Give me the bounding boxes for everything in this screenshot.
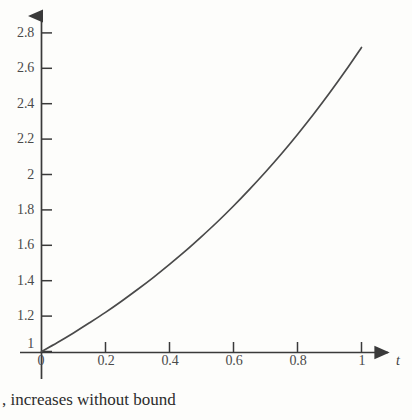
figure-caption: , increases without bound — [2, 390, 176, 410]
x-tick-label-0-4: 0.4 — [150, 353, 190, 369]
x-tick-label-0-8: 0.8 — [278, 353, 318, 369]
y-tick-label-2-6: 2.6 — [0, 60, 34, 76]
x-tick-label-0-2: 0.2 — [86, 353, 126, 369]
y-tick-label-1: 1 — [0, 336, 34, 352]
x-tick-label-0: 0 — [21, 353, 61, 369]
data-curve-e-to-the-t — [42, 47, 362, 351]
y-tick-label-2-2: 2.2 — [0, 131, 34, 147]
y-tick-label-2: 2 — [0, 167, 34, 183]
y-tick-label-1-4: 1.4 — [0, 273, 34, 289]
x-tick-label-0-6: 0.6 — [214, 353, 254, 369]
y-axis-ticks — [42, 33, 53, 352]
y-tick-label-1-6: 1.6 — [0, 237, 34, 253]
x-axis-title: t — [396, 353, 400, 369]
x-axis-ticks — [106, 342, 362, 353]
x-tick-label-1: 1 — [342, 353, 382, 369]
figure-container: 2.8 2.6 2.4 2.2 2 1.8 1.6 1.4 1.2 1 0 0.… — [0, 0, 412, 420]
y-tick-label-2-8: 2.8 — [0, 25, 34, 41]
y-tick-label-1-8: 1.8 — [0, 202, 34, 218]
y-tick-label-1-2: 1.2 — [0, 308, 34, 324]
y-tick-label-2-4: 2.4 — [0, 96, 34, 112]
